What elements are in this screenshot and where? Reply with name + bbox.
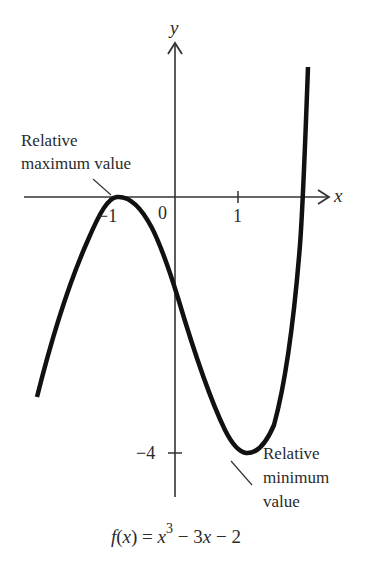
min-annotation-line3: value <box>263 492 300 512</box>
max-annotation-line2: maximum value <box>21 154 131 174</box>
formula-x2: x <box>158 526 166 547</box>
x-axis-label: x <box>334 186 342 206</box>
function-curve <box>37 67 308 453</box>
max-leader-line <box>93 179 111 195</box>
formula-x3: x <box>203 526 211 547</box>
formula-term2: − 3 <box>173 526 203 547</box>
tick-label-1: 1 <box>233 206 242 226</box>
min-annotation-line2: minimum <box>263 468 329 488</box>
max-annotation-line1: Relative <box>21 131 78 151</box>
y-axis-label: y <box>170 18 178 38</box>
tick-label-0: 0 <box>158 203 167 223</box>
formula-equals: ) = <box>131 526 158 547</box>
tick-label-neg4: −4 <box>136 443 155 463</box>
min-annotation-line1: Relative <box>263 444 320 464</box>
formula-x: x <box>123 526 131 547</box>
tick-label-neg1: −1 <box>98 206 117 226</box>
formula-term3: − 2 <box>211 526 241 547</box>
formula-exponent: 3 <box>166 521 173 536</box>
function-formula: f(x) = x3 − 3x − 2 <box>111 522 241 547</box>
min-leader-line <box>231 461 252 485</box>
